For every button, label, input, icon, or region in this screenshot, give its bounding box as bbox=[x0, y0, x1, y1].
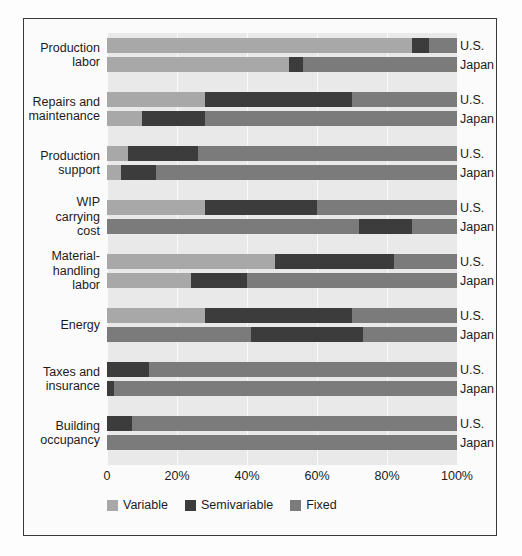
stacked-bar bbox=[107, 57, 457, 72]
bar-group bbox=[107, 92, 457, 126]
stacked-bar bbox=[107, 273, 457, 288]
stacked-bar bbox=[107, 92, 457, 107]
bar-segment-semivariable bbox=[251, 327, 363, 342]
bar-segment-fixed bbox=[198, 146, 457, 161]
series-label-japan: Japan bbox=[460, 382, 494, 397]
series-label-japan: Japan bbox=[460, 436, 494, 451]
bar-group bbox=[107, 200, 457, 234]
bar-segment-semivariable bbox=[359, 219, 412, 234]
stacked-bar bbox=[107, 165, 457, 180]
bar-segment-semivariable bbox=[142, 111, 205, 126]
bar-segment-variable bbox=[107, 92, 205, 107]
bar-segment-semivariable bbox=[107, 416, 132, 431]
bar-group bbox=[107, 254, 457, 288]
chart-legend: VariableSemivariableFixed bbox=[107, 498, 337, 512]
bar-segment-fixed bbox=[107, 219, 359, 234]
bar-group bbox=[107, 146, 457, 180]
bar-segment-variable bbox=[107, 38, 412, 53]
x-tick-label: 60% bbox=[304, 469, 329, 483]
plot-area bbox=[107, 33, 457, 465]
bar-segment-fixed bbox=[429, 38, 457, 53]
bar-segment-fixed bbox=[394, 254, 457, 269]
bar-segment-semivariable bbox=[107, 381, 114, 396]
bar-segment-fixed bbox=[107, 327, 251, 342]
legend-label: Variable bbox=[123, 498, 168, 512]
bar-segment-variable bbox=[107, 254, 275, 269]
bar-segment-fixed bbox=[352, 92, 457, 107]
stacked-bar bbox=[107, 200, 457, 215]
series-label-us: U.S. bbox=[460, 417, 484, 432]
bar-group bbox=[107, 308, 457, 342]
bar-segment-fixed bbox=[352, 308, 457, 323]
category-label: Productionlabor bbox=[5, 41, 100, 70]
category-label: Productionsupport bbox=[5, 149, 100, 178]
square-swatch-icon bbox=[185, 500, 196, 511]
series-label-japan: Japan bbox=[460, 166, 494, 181]
series-label-japan: Japan bbox=[460, 112, 494, 127]
x-tick-label: 80% bbox=[374, 469, 399, 483]
gridline bbox=[457, 33, 458, 465]
category-label: Material-handlinglabor bbox=[5, 249, 100, 293]
series-label-us: U.S. bbox=[460, 255, 484, 270]
stacked-bar bbox=[107, 219, 457, 234]
category-label: Buildingoccupancy bbox=[5, 419, 100, 448]
bar-segment-variable bbox=[107, 200, 205, 215]
bar-segment-fixed bbox=[303, 57, 457, 72]
chart-figure: ProductionlaborRepairs andmaintenancePro… bbox=[0, 0, 522, 556]
bar-segment-semivariable bbox=[107, 362, 149, 377]
series-label-us: U.S. bbox=[460, 201, 484, 216]
bar-segment-semivariable bbox=[275, 254, 394, 269]
bar-segment-semivariable bbox=[205, 200, 317, 215]
series-label-japan: Japan bbox=[460, 328, 494, 343]
category-label: WIPcarryingcost bbox=[5, 195, 100, 239]
bar-segment-fixed bbox=[132, 416, 458, 431]
x-tick-label: 20% bbox=[164, 469, 189, 483]
stacked-bar bbox=[107, 38, 457, 53]
bar-group bbox=[107, 38, 457, 72]
bar-segment-semivariable bbox=[412, 38, 430, 53]
bar-segment-semivariable bbox=[205, 308, 352, 323]
bar-segment-variable bbox=[107, 308, 205, 323]
bar-segment-variable bbox=[107, 111, 142, 126]
stacked-bar bbox=[107, 362, 457, 377]
bar-segment-variable bbox=[107, 273, 191, 288]
bar-segment-semivariable bbox=[121, 165, 156, 180]
legend-label: Fixed bbox=[306, 498, 337, 512]
category-axis-labels: ProductionlaborRepairs andmaintenancePro… bbox=[0, 33, 100, 465]
x-axis: 020%40%60%80%100% bbox=[107, 466, 457, 488]
bar-segment-fixed bbox=[114, 381, 457, 396]
bar-segment-semivariable bbox=[205, 92, 352, 107]
bar-segment-fixed bbox=[205, 111, 457, 126]
bar-segment-fixed bbox=[156, 165, 457, 180]
category-label: Taxes andinsurance bbox=[5, 365, 100, 394]
stacked-bar bbox=[107, 327, 457, 342]
stacked-bar bbox=[107, 111, 457, 126]
stacked-bar bbox=[107, 254, 457, 269]
bar-group bbox=[107, 362, 457, 396]
bar-segment-fixed bbox=[107, 435, 457, 450]
x-tick-label: 40% bbox=[234, 469, 259, 483]
legend-label: Semivariable bbox=[201, 498, 273, 512]
bar-segment-semivariable bbox=[289, 57, 303, 72]
stacked-bar bbox=[107, 416, 457, 431]
legend-item: Fixed bbox=[290, 498, 337, 512]
series-label-us: U.S. bbox=[460, 309, 484, 324]
bar-segment-fixed bbox=[149, 362, 457, 377]
bar-segment-variable bbox=[107, 146, 128, 161]
bar-segment-fixed bbox=[317, 200, 457, 215]
stacked-bar bbox=[107, 435, 457, 450]
bar-segment-variable bbox=[107, 57, 289, 72]
series-label-japan: Japan bbox=[460, 220, 494, 235]
series-label-japan: Japan bbox=[460, 58, 494, 73]
series-label-us: U.S. bbox=[460, 39, 484, 54]
bar-segment-fixed bbox=[247, 273, 457, 288]
bar-segment-variable bbox=[107, 165, 121, 180]
stacked-bar bbox=[107, 308, 457, 323]
category-label: Energy bbox=[5, 318, 100, 333]
series-label-us: U.S. bbox=[460, 147, 484, 162]
legend-item: Variable bbox=[107, 498, 168, 512]
series-labels: U.S.JapanU.S.JapanU.S.JapanU.S.JapanU.S.… bbox=[460, 33, 520, 465]
bar-group bbox=[107, 416, 457, 450]
series-label-us: U.S. bbox=[460, 363, 484, 378]
bar-segment-semivariable bbox=[128, 146, 198, 161]
